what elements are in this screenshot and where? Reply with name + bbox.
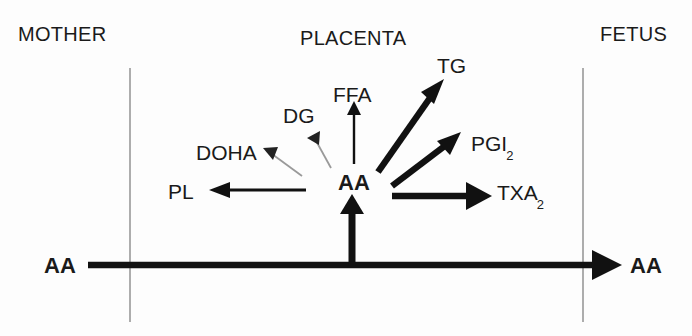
node-label-ffa: FFA <box>333 84 372 105</box>
aa-to-doha-arrow <box>263 147 302 176</box>
compartment-label-fetus: FETUS <box>600 24 667 44</box>
node-label-central-aa: AA <box>338 172 370 194</box>
diagram-canvas <box>0 0 692 336</box>
node-label-tg: TG <box>437 55 466 76</box>
node-label-txa2: TXA2 <box>497 182 545 207</box>
node-label-txa2-base: TXA <box>497 181 538 204</box>
aa-to-pl-arrow <box>209 182 306 198</box>
compartment-label-placenta: PLACENTA <box>300 28 407 48</box>
node-label-doha: DOHA <box>196 142 257 163</box>
compartment-label-mother: MOTHER <box>18 24 106 44</box>
node-label-fetal-aa: AA <box>630 255 662 277</box>
node-label-maternal-aa: AA <box>44 255 76 277</box>
aa-to-txa2-arrow <box>392 182 492 210</box>
node-label-dg: DG <box>283 105 315 126</box>
node-label-txa2-subscript: 2 <box>537 197 544 212</box>
pathway-diagram: MOTHER PLACENTA FETUS AA AA AA PL DOHA D… <box>0 0 692 336</box>
node-label-pgi2-base: PGI <box>471 132 507 155</box>
node-label-pgi2: PGI2 <box>471 133 514 158</box>
node-label-pl: PL <box>168 181 194 202</box>
aa-to-dg-arrow <box>307 131 331 168</box>
uptake-into-aa-pool-arrow <box>340 194 364 266</box>
aa-to-ffa-arrow <box>347 101 361 164</box>
node-label-pgi2-subscript: 2 <box>506 148 513 163</box>
